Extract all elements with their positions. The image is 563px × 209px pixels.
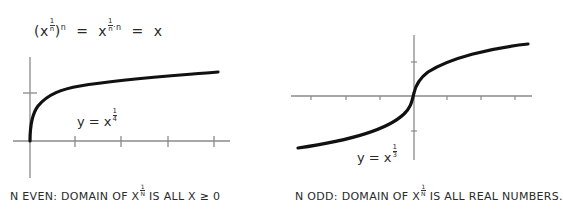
formula-equals: =	[132, 23, 144, 39]
formula-mid-base: x	[98, 23, 107, 39]
left-curve-label: y = x14	[77, 108, 117, 129]
left-curve-fourth-root	[30, 72, 218, 141]
right-graph	[291, 35, 532, 160]
formula-lhs-outer-exponent: n	[61, 23, 67, 32]
exponent-identity-formula: (x1n)n = x1n·n = x	[34, 18, 163, 39]
right-curve-label: y = x13	[357, 144, 397, 165]
left-graph	[13, 57, 230, 178]
right-caption-odd-domain: n odd: domain of x1n is all real numbers…	[295, 184, 563, 203]
formula-rhs: x	[154, 23, 163, 39]
formula-mid-exponent-tail: ·n	[113, 23, 122, 32]
formula-lhs-base: (x	[34, 23, 49, 39]
left-caption-even-domain: n even: domain of x1n is all x ≥ 0	[10, 184, 220, 203]
formula-equals: =	[76, 23, 88, 39]
